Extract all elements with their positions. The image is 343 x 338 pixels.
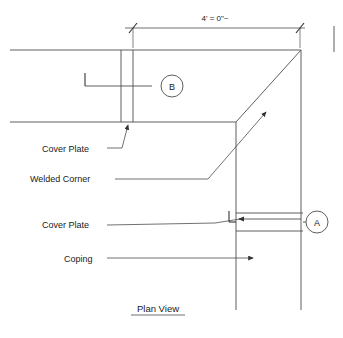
annotation-cover-plate-upper: Cover Plate — [42, 125, 128, 154]
welded-corner-diagonal — [236, 50, 301, 122]
plan-view-drawing: 4' = 0"~ B — [0, 0, 343, 338]
leader-cover-plate-lower-segment1 — [107, 223, 215, 225]
annotation-cover-plate-upper-label: Cover Plate — [42, 144, 89, 154]
annotation-coping: Coping — [64, 254, 253, 264]
callout-bubble-a[interactable]: A — [306, 211, 328, 233]
cover-plate-band-lower — [236, 213, 303, 231]
dimension-group: 4' = 0"~ — [125, 14, 305, 48]
callout-bubble-a-label: A — [314, 218, 320, 228]
plan-view-title-group: Plan View — [131, 303, 185, 315]
annotation-welded-corner-label: Welded Corner — [30, 174, 90, 184]
annotation-cover-plate-lower: Cover Plate — [42, 219, 301, 230]
callout-bubble-b[interactable]: B — [161, 75, 183, 97]
dimension-label: 4' = 0"~ — [201, 14, 228, 23]
leader-cover-plate-upper-angled — [122, 125, 128, 148]
plan-view-canvas: 4' = 0"~ B — [0, 0, 343, 338]
annotation-coping-label: Coping — [64, 254, 93, 264]
section-mark-b — [85, 73, 152, 86]
plan-view-title: Plan View — [137, 303, 179, 314]
annotation-cover-plate-lower-label: Cover Plate — [42, 220, 89, 230]
callout-bubble-b-label: B — [169, 82, 175, 92]
